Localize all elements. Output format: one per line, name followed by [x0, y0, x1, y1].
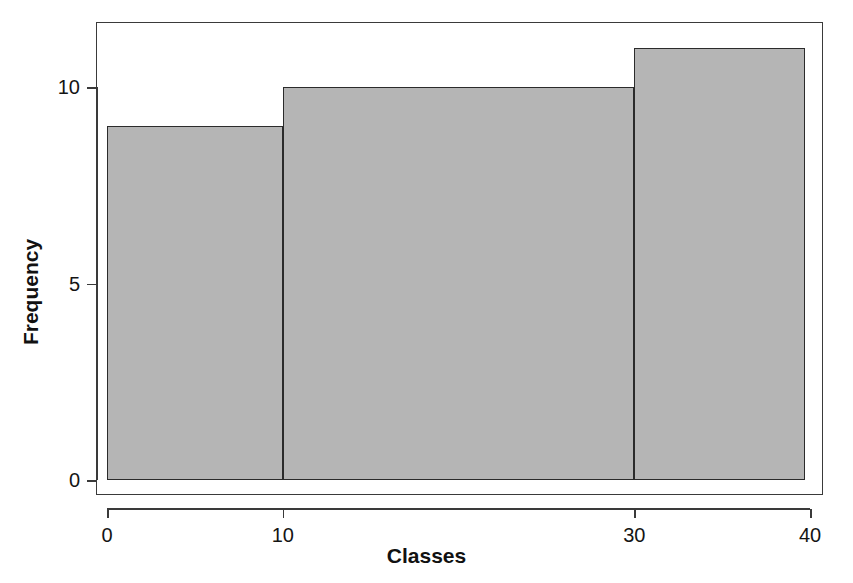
x-axis-tick — [107, 509, 109, 518]
y-axis-tick — [87, 284, 96, 286]
y-axis-line — [96, 87, 98, 480]
plot-frame — [96, 22, 823, 495]
y-axis-tick — [87, 87, 96, 89]
y-axis-title: Frequency — [14, 0, 48, 583]
x-axis-tick — [283, 509, 285, 518]
histogram-figure: 0510 0103040 Frequency Classes — [0, 0, 853, 583]
y-axis-title-label: Frequency — [19, 238, 43, 344]
x-axis-tick — [810, 509, 812, 518]
x-axis-title: Classes — [0, 544, 853, 568]
x-axis-tick — [634, 509, 636, 518]
x-axis-title-label: Classes — [387, 544, 466, 567]
x-axis-line — [107, 508, 810, 510]
y-axis-tick — [87, 480, 96, 482]
